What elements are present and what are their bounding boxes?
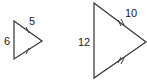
similar-triangles-diagram: 6 5 12 10: [0, 0, 147, 80]
small-triangle-outline: [14, 21, 42, 59]
large-triangle-outline: [94, 3, 146, 78]
small-triangle: 6 5: [4, 15, 42, 59]
large-left-side-label: 12: [78, 36, 90, 48]
large-triangle: 12 10: [78, 3, 146, 78]
small-upper-side-label: 5: [29, 15, 35, 27]
small-left-side-label: 6: [4, 35, 10, 47]
large-upper-side-label: 10: [125, 7, 137, 19]
